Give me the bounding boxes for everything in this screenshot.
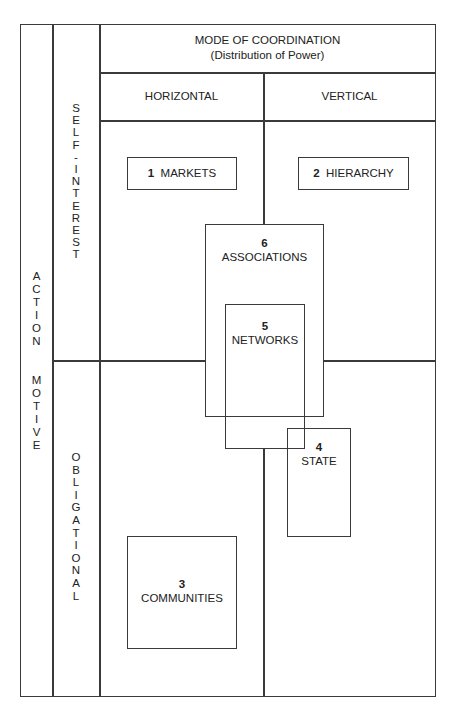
header-subtitle: (Distribution of Power): [100, 48, 435, 63]
column-horizontal: HORIZONTAL: [100, 89, 263, 104]
row-divider-left: [52, 360, 205, 362]
state-label: 4 STATE: [288, 440, 350, 468]
row-obligational: OBLIGATIONAL: [53, 451, 99, 602]
row-divider-right: [323, 360, 435, 362]
header-title: MODE OF COORDINATION: [100, 33, 435, 48]
associations-label: 6 ASSOCIATIONS: [206, 236, 323, 264]
networks-label: 5 NETWORKS: [226, 319, 304, 347]
header-title-block: MODE OF COORDINATION (Distribution of Po…: [100, 33, 435, 63]
box-communities: 3 COMMUNITIES: [127, 536, 237, 649]
hierarchy-label: 2 HIERARCHY: [299, 166, 408, 180]
markets-label: 1 MARKETS: [128, 166, 236, 180]
axis-motive: MOTIVE: [21, 374, 52, 452]
header-bottom-line: [99, 72, 435, 74]
column-vertical: VERTICAL: [264, 89, 435, 104]
box-hierarchy: 2 HIERARCHY: [298, 157, 409, 190]
center-divider-bottom: [263, 448, 265, 697]
axis-action: ACTION: [21, 270, 52, 348]
box-state: 4 STATE: [287, 428, 351, 537]
row-self-interest: SELF-INTEREST: [53, 102, 99, 261]
subheader-bottom-line: [99, 120, 435, 122]
communities-label: 3 COMMUNITIES: [128, 577, 236, 605]
box-markets: 1 MARKETS: [127, 157, 237, 190]
